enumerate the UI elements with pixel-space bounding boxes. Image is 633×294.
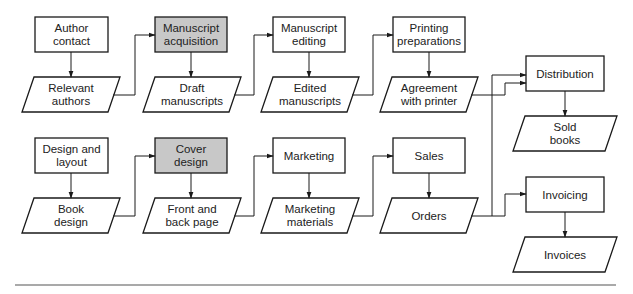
- node-label: layout: [56, 156, 87, 168]
- node-label: with printer: [400, 95, 457, 107]
- connector-arrow: [113, 156, 155, 216]
- node-label: Author: [55, 22, 89, 34]
- process-box-manuscript-acquisition: Manuscriptacquisition: [155, 17, 227, 52]
- output-parallelogram-marketing-materials: Marketingmaterials: [261, 198, 359, 233]
- node-label: authors: [52, 95, 91, 107]
- node-label: Front and: [167, 203, 216, 215]
- output-parallelogram-book-design: Bookdesign: [22, 198, 120, 233]
- node-label: Orders: [411, 210, 446, 222]
- process-box-marketing: Marketing: [273, 138, 345, 173]
- node-label: Cover: [176, 143, 207, 155]
- connector-arrow: [471, 83, 526, 95]
- node-label: Distribution: [536, 68, 594, 80]
- connector-arrow: [352, 156, 393, 216]
- node-label: Edited: [294, 82, 327, 94]
- node-label: Sales: [415, 150, 444, 162]
- connector-arrow: [352, 35, 393, 95]
- node-label: Manuscript: [281, 22, 338, 34]
- node-label: Manuscript: [163, 22, 220, 34]
- output-parallelogram-agreement-with-printer: Agreementwith printer: [380, 77, 478, 112]
- output-parallelogram-relevant-authors: Relevantauthors: [22, 77, 120, 112]
- connector-arrow: [234, 156, 273, 216]
- connector-arrow: [113, 35, 155, 95]
- node-label: design: [54, 216, 88, 228]
- process-box-invoicing: Invoicing: [526, 177, 604, 212]
- node-label: manuscripts: [161, 95, 223, 107]
- node-label: back page: [165, 216, 218, 228]
- node-label: Agreement: [401, 82, 458, 94]
- process-box-sales: Sales: [393, 138, 465, 173]
- output-parallelogram-sold-books: Soldbooks: [513, 116, 617, 151]
- node-label: contact: [53, 35, 91, 47]
- output-parallelogram-orders: Orders: [380, 198, 478, 233]
- connector-arrow: [234, 35, 273, 95]
- process-box-distribution: Distribution: [526, 56, 604, 91]
- node-label: Design and: [42, 143, 100, 155]
- node-label: editing: [292, 35, 326, 47]
- connector-arrow: [492, 194, 526, 216]
- node-label: design: [174, 156, 208, 168]
- node-label: Invoices: [544, 249, 586, 261]
- process-box-manuscript-editing: Manuscriptediting: [273, 17, 345, 52]
- node-label: Relevant: [48, 82, 94, 94]
- node-label: Marketing: [284, 150, 335, 162]
- node-label: preparations: [397, 35, 461, 47]
- output-parallelogram-invoices: Invoices: [513, 237, 617, 272]
- node-label: materials: [287, 216, 334, 228]
- node-label: books: [550, 134, 581, 146]
- node-label: acquisition: [164, 35, 218, 47]
- node-label: manuscripts: [279, 95, 341, 107]
- output-parallelogram-draft-manuscripts: Draftmanuscripts: [143, 77, 241, 112]
- node-label: Marketing: [285, 203, 336, 215]
- node-label: Printing: [410, 22, 449, 34]
- output-parallelogram-edited-manuscripts: Editedmanuscripts: [261, 77, 359, 112]
- node-label: Invoicing: [542, 189, 587, 201]
- process-box-author-contact: Authorcontact: [35, 17, 108, 52]
- output-parallelogram-front-and-back-page: Front andback page: [143, 198, 241, 233]
- node-label: Draft: [180, 82, 206, 94]
- process-box-cover-design: Coverdesign: [155, 138, 227, 173]
- process-box-printing-preparations: Printingpreparations: [393, 17, 465, 52]
- node-label: Sold: [553, 121, 576, 133]
- process-box-design-and-layout: Design andlayout: [35, 138, 108, 173]
- node-label: Book: [58, 203, 84, 215]
- flowchart-diagram: AuthorcontactManuscriptacquisitionManusc…: [0, 0, 633, 294]
